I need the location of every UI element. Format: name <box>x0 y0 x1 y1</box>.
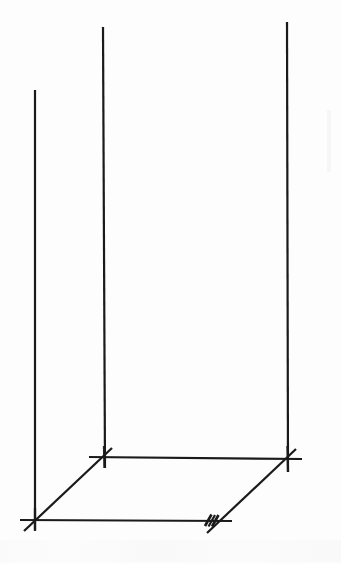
line-drawing-svg <box>0 0 341 564</box>
left-bottom-diagonal-edge <box>24 448 112 531</box>
corner-cross-back-bottom-right <box>288 446 289 472</box>
back-bottom-horizontal-edge <box>89 457 302 459</box>
right-bottom-diagonal-edge <box>207 449 296 533</box>
vertical-edges <box>35 22 288 530</box>
figure-canvas: 3D oblique projection line drawing of an… <box>0 0 341 564</box>
right-back-vertical-edge <box>287 22 288 472</box>
base-parallelogram-edges <box>20 448 302 533</box>
center-back-vertical-edge <box>103 27 105 468</box>
corner-cross-back-bottom-left <box>104 446 105 468</box>
front-bottom-horizontal-edge <box>20 520 232 521</box>
